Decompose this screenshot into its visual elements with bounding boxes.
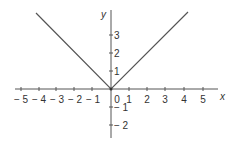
y-tick-label: − 2 <box>114 120 129 131</box>
y-tick-label: − 1 <box>114 102 129 113</box>
y-axis-label: y <box>100 9 107 20</box>
x-tick-label: 5 <box>200 94 206 105</box>
x-tick-label: − 2 <box>68 94 83 105</box>
x-tick-label: − 4 <box>32 94 47 105</box>
y-tick-label: 1 <box>114 66 120 77</box>
x-tick-label: − 1 <box>86 94 101 105</box>
x-tick-label: 3 <box>162 94 168 105</box>
x-axis-label: x <box>219 91 226 102</box>
x-tick-label: − 5 <box>14 94 29 105</box>
x-tick-label: 4 <box>181 94 187 105</box>
x-tick-label: 2 <box>144 94 150 105</box>
chart-canvas: − 5 − 4 − 3 − 2 − 1 0 1 2 3 4 5 3 2 1 − … <box>0 0 235 144</box>
x-tick-label: − 3 <box>50 94 65 105</box>
origin-point <box>110 88 113 91</box>
y-tick-label: 2 <box>114 48 120 59</box>
y-tick-label: 3 <box>114 30 120 41</box>
abs-value-line <box>36 12 188 89</box>
